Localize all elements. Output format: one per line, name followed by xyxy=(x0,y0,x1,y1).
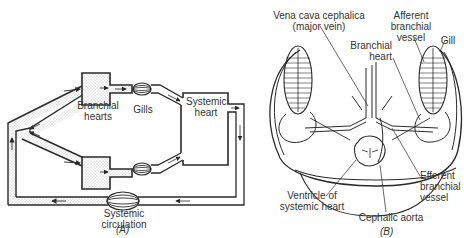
label-line: hearts xyxy=(76,111,120,122)
label-line: Systemic xyxy=(96,208,152,219)
label-afferent-branchial-vessel: Afferent branchial vessel xyxy=(386,10,436,43)
leader-vena-cava xyxy=(320,26,368,106)
label-line: heart xyxy=(340,51,392,62)
label-line: Vena cava cephalica xyxy=(264,10,374,21)
leader-branchial-heart xyxy=(393,58,420,120)
label-branchial-hearts: Branchial hearts xyxy=(76,100,120,122)
gill-top xyxy=(133,83,151,95)
label-gills: Gills xyxy=(130,104,156,115)
label-cephalic-aorta: Cephalic aorta xyxy=(354,212,428,223)
label-line: branchial xyxy=(386,21,436,32)
label-line: (major vein) xyxy=(264,21,374,32)
label-vena-cava: Vena cava cephalica (major vein) xyxy=(264,10,374,32)
label-efferent-branchial-vessel: Efferent branchial vessel xyxy=(420,170,464,203)
label-line: Systemic xyxy=(186,96,226,107)
label-line: Branchial xyxy=(340,40,392,51)
label-line: vessel xyxy=(420,192,464,203)
caption-b: (B) xyxy=(380,226,393,237)
label-systemic-heart: Systemic heart xyxy=(186,96,226,118)
label-line: Efferent xyxy=(420,170,464,181)
label-ventricle-systemic-heart: Ventricle of systemic heart xyxy=(274,190,350,212)
label-line: Ventricle of xyxy=(274,190,350,201)
label-line: Branchial xyxy=(76,100,120,111)
label-branchial-heart: Branchial heart xyxy=(340,40,392,62)
label-line: systemic heart xyxy=(274,201,350,212)
label-line: branchial xyxy=(420,181,464,192)
leader-efferent xyxy=(392,128,420,176)
branchial-heart-bottom xyxy=(82,157,132,189)
leader-cephalic-aorta xyxy=(380,165,386,212)
label-gill: Gill xyxy=(436,35,460,46)
label-line: Afferent xyxy=(386,10,436,21)
label-line: heart xyxy=(186,107,226,118)
efferent-vessels-a xyxy=(151,85,183,173)
caption-a: (A) xyxy=(116,224,129,235)
label-line: vessel xyxy=(386,32,436,43)
gill-bottom xyxy=(133,163,151,175)
